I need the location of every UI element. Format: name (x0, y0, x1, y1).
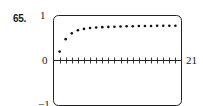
data-point (107, 26, 110, 29)
data-point (138, 25, 141, 28)
data-point (83, 28, 86, 31)
data-point (156, 24, 159, 27)
data-point (150, 25, 153, 28)
data-point (70, 32, 73, 35)
scatter-plot (0, 0, 203, 106)
data-point (89, 27, 92, 30)
data-point (64, 38, 67, 41)
data-point (77, 29, 80, 32)
data-point (131, 25, 134, 28)
data-point (58, 50, 61, 53)
data-point (119, 25, 122, 28)
data-point (174, 24, 177, 27)
data-point (125, 25, 128, 28)
data-point (101, 26, 104, 29)
data-point (144, 25, 147, 28)
data-points (58, 24, 176, 52)
data-point (168, 24, 171, 27)
data-point (95, 26, 98, 29)
data-point (162, 24, 165, 27)
data-point (113, 25, 116, 28)
